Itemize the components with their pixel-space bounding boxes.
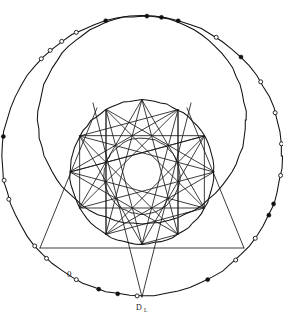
- outer-marker-filled: [271, 202, 275, 206]
- outer-marker-hollow: [48, 48, 52, 52]
- outer-marker-hollow: [33, 244, 37, 248]
- outer-marker-filled: [97, 287, 101, 291]
- outer-marker-filled: [206, 278, 210, 282]
- outer-marker-filled: [159, 15, 163, 19]
- outer-marker-hollow: [234, 258, 238, 262]
- outer-marker-filled: [104, 19, 108, 23]
- bottom-label: D: [136, 303, 142, 312]
- outer-marker-hollow: [74, 278, 78, 282]
- outer-marker-hollow: [253, 236, 257, 240]
- outer-marker-hollow: [2, 178, 6, 182]
- outer-marker-filled: [1, 134, 5, 138]
- outer-marker-filled: [239, 55, 243, 59]
- outer-marker-hollow: [259, 80, 263, 84]
- outer-marker-hollow: [7, 197, 11, 201]
- outer-marker-filled: [267, 213, 271, 217]
- outer-marker-hollow: [279, 173, 283, 177]
- outer-marker-filled: [176, 19, 180, 23]
- outer-marker-hollow: [74, 30, 78, 34]
- outer-marker-hollow: [39, 57, 43, 61]
- geometric-figure: D L 0: [0, 0, 283, 318]
- figure-background: [0, 0, 283, 318]
- bottom-label-subscript: L: [144, 307, 148, 313]
- lower-left-zero-label: 0: [67, 269, 72, 279]
- diagram-canvas: D L 0: [0, 0, 283, 318]
- outer-marker-hollow: [135, 294, 139, 298]
- outer-marker-hollow: [273, 111, 277, 115]
- outer-marker-hollow: [279, 142, 283, 146]
- outer-marker-hollow: [60, 39, 64, 43]
- outer-marker-filled: [145, 14, 149, 18]
- outer-marker-filled: [116, 292, 120, 296]
- outer-marker-hollow: [214, 35, 218, 39]
- outer-marker-hollow: [45, 256, 49, 260]
